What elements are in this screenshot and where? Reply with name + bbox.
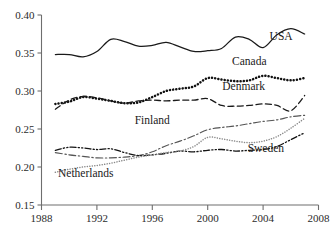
series-label-finland: Finland xyxy=(135,114,170,126)
y-tick-label: 0.25 xyxy=(15,123,35,135)
y-tick-label: 0.20 xyxy=(15,161,35,173)
chart-canvas: 0.150.200.250.300.350.40 198819921996200… xyxy=(0,0,334,239)
x-axis-tick-labels: 198819921996200020042008 xyxy=(31,212,331,224)
y-tick-label: 0.35 xyxy=(15,47,35,59)
series-label-denmark: Denmark xyxy=(222,80,265,92)
x-tick-label: 1996 xyxy=(141,212,164,224)
series-line-canada xyxy=(55,76,304,104)
y-tick-label: 0.40 xyxy=(15,9,35,21)
y-axis-tick-labels: 0.150.200.250.300.350.40 xyxy=(15,9,35,211)
series-label-usa: USA xyxy=(270,30,294,42)
y-tick-label: 0.15 xyxy=(15,199,35,211)
series-label-sweden: Sweden xyxy=(248,142,285,154)
line-chart: 0.150.200.250.300.350.40 198819921996200… xyxy=(0,0,334,239)
series-label-canada: Canada xyxy=(232,55,266,67)
x-tick-label: 1992 xyxy=(86,212,108,224)
x-tick-label: 2008 xyxy=(308,212,331,224)
axes-group xyxy=(38,15,319,210)
series-line-usa xyxy=(55,29,304,57)
x-axis-ticks xyxy=(42,205,319,210)
x-tick-label: 2004 xyxy=(252,212,275,224)
y-tick-label: 0.30 xyxy=(15,85,35,97)
x-tick-label: 2000 xyxy=(197,212,220,224)
x-tick-label: 1988 xyxy=(31,212,54,224)
series-label-netherlands: Netherlands xyxy=(58,167,114,179)
y-axis-ticks xyxy=(38,15,42,205)
